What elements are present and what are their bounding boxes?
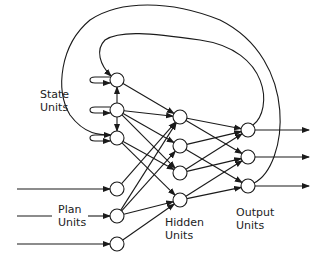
plan-unit <box>110 209 124 223</box>
state-label-line1: State <box>40 88 69 101</box>
edge-state-hidden <box>124 111 173 116</box>
edge-hidden-output <box>186 121 242 154</box>
output-units-label: Output Units <box>236 206 275 232</box>
plan-label-line1: Plan <box>58 203 81 216</box>
plan-units-label: Plan Units <box>58 203 86 229</box>
hidden-units-label: Hidden Units <box>165 216 204 242</box>
state-self-loop <box>90 107 110 113</box>
edge-plan-hidden <box>124 202 173 215</box>
edge-hidden-output <box>187 159 241 172</box>
plan-label-line2: Units <box>58 216 86 229</box>
plan-unit <box>110 237 124 251</box>
edge-state-hidden <box>123 141 174 169</box>
edge-hidden-output <box>186 134 242 170</box>
state-unit <box>110 131 124 145</box>
output-unit <box>241 150 255 164</box>
plan-unit <box>110 182 124 196</box>
edge-state-hidden <box>123 84 174 114</box>
edge-plan-hidden <box>122 151 176 211</box>
state-units-label: State Units <box>40 88 69 114</box>
hidden-unit <box>173 166 187 180</box>
state-self-loop <box>90 77 110 83</box>
output-unit <box>241 179 255 193</box>
edge-hidden-output <box>187 118 241 128</box>
edge-hidden-output <box>187 187 241 198</box>
hidden-unit <box>173 193 187 207</box>
edge-state-hidden <box>122 143 175 195</box>
edge-plan-hidden <box>122 122 176 183</box>
edge-hidden-output <box>187 132 241 145</box>
state-self-loop <box>90 135 110 141</box>
hidden-unit <box>173 110 187 124</box>
network-diagram: State Units Plan Units Hidden Units Outp… <box>0 0 328 264</box>
state-unit <box>110 103 124 117</box>
state-label-line2: Units <box>40 101 68 114</box>
output-label-line1: Output <box>236 206 275 219</box>
output-unit <box>241 123 255 137</box>
output-label-line2: Units <box>236 219 264 232</box>
hidden-unit <box>173 139 187 153</box>
hidden-label-line2: Units <box>165 229 193 242</box>
state-unit <box>110 73 124 87</box>
hidden-label-line1: Hidden <box>165 216 204 229</box>
